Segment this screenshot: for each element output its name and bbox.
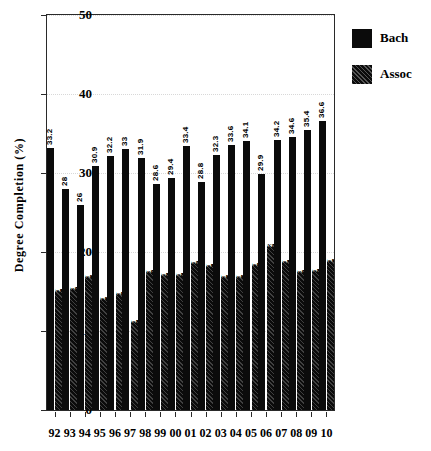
x-tick-mark	[175, 412, 176, 417]
bar-group: 30.914.3	[92, 15, 107, 410]
x-tick-mark	[55, 412, 56, 417]
bar-value-label-assoc: 15	[114, 285, 123, 294]
bar-group: 29.417.4	[168, 15, 183, 410]
bar-bach	[198, 182, 205, 410]
bar-group: 32.215	[107, 15, 122, 410]
bar-value-label-bach: 34.2	[272, 120, 281, 136]
legend-label: Bach	[380, 30, 408, 46]
bar-group: 33.418.8	[183, 15, 198, 410]
x-tick-mark	[70, 412, 71, 417]
bar-bach	[183, 146, 190, 410]
x-tick-mark	[281, 412, 282, 417]
bar-value-label-bach: 34.1	[241, 121, 250, 137]
bar-group: 33.617.1	[228, 15, 243, 410]
bar-group: 2815.6	[62, 15, 77, 410]
x-axis: 92939495969798990001020304050607080910	[47, 412, 334, 448]
bar-value-label-assoc: 17.1	[219, 262, 228, 278]
bar-value-label-assoc: 17.1	[234, 262, 243, 278]
bar-value-label-bach: 28	[60, 177, 69, 186]
x-tick-mark	[221, 412, 222, 417]
x-tick-mark	[251, 412, 252, 417]
bar-assoc	[327, 259, 334, 410]
x-tick-mark	[160, 412, 161, 417]
bar-group: 34.219	[274, 15, 289, 410]
bar-group: 31.917.7	[138, 15, 153, 410]
bar-group: 28.617.3	[153, 15, 168, 410]
bar-value-label-assoc: 11.4	[129, 307, 138, 323]
bar-value-label-bach: 31.9	[136, 139, 145, 155]
x-tick-mark	[266, 412, 267, 417]
bar-group: 28.818.5	[198, 15, 213, 410]
legend-item[interactable]: Bach	[352, 28, 430, 48]
bar-value-label-assoc: 14.3	[98, 284, 107, 300]
bar-value-label-assoc: 21	[265, 238, 274, 247]
x-tick-mark	[115, 412, 116, 417]
y-tick-mark	[41, 331, 46, 332]
bar-value-label-assoc: 18.5	[204, 250, 213, 266]
bar-bach	[289, 137, 296, 410]
bar-value-label-bach: 32.3	[211, 135, 220, 151]
x-tick-mark	[100, 412, 101, 417]
degree-completion-bar-chart: Degree Completion (%) 01020304050 33.215…	[0, 0, 431, 451]
bar-value-label-assoc: 15.6	[68, 273, 77, 289]
x-tick-mark	[326, 412, 327, 417]
bar-value-label-bach: 28.8	[196, 163, 205, 179]
bar-value-label-assoc: 19	[280, 254, 289, 263]
bar-value-label-assoc: 17.7	[144, 257, 153, 273]
bar-value-label-assoc: 17.9	[310, 255, 319, 271]
y-tick-mark	[41, 15, 46, 16]
bar-group: 34.617.7	[289, 15, 304, 410]
x-tick-mark	[236, 412, 237, 417]
bar-bach	[62, 189, 69, 410]
y-tick-mark	[41, 252, 46, 253]
bar-group: 3311.4	[123, 15, 138, 410]
legend-swatch-assoc	[352, 65, 372, 84]
y-axis-title: Degree Completion (%)	[12, 35, 30, 375]
bar-bach	[77, 205, 84, 410]
legend-label: Assoc	[380, 66, 412, 82]
bar-group: 34.118.6	[243, 15, 258, 410]
bar-group: 29.921	[258, 15, 273, 410]
x-tick-label: 10	[315, 426, 337, 441]
bar-value-label-bach: 35.4	[302, 111, 311, 127]
bar-value-label-bach: 36.6	[317, 102, 326, 118]
bar-value-label-bach: 33	[120, 137, 129, 146]
x-tick-mark	[311, 412, 312, 417]
x-tick-mark	[85, 412, 86, 417]
x-tick-mark	[145, 412, 146, 417]
bar-value-label-bach: 33.2	[45, 128, 54, 144]
bar-value-label-assoc: 15.3	[53, 276, 62, 292]
bar-group: 33.215.3	[47, 15, 62, 410]
y-tick-mark	[41, 94, 46, 95]
bar-value-label-assoc: 17.4	[174, 259, 183, 275]
x-tick-mark	[191, 412, 192, 417]
bar-value-label-bach: 33.4	[181, 127, 190, 143]
bar-value-label-bach: 26	[75, 192, 84, 201]
x-tick-mark	[206, 412, 207, 417]
x-tick-mark	[296, 412, 297, 417]
x-tick-mark	[130, 412, 131, 417]
y-tick-mark	[41, 410, 46, 411]
bar-group: 32.317.1	[213, 15, 228, 410]
bar-value-label-bach: 34.6	[287, 117, 296, 133]
bar-bach	[213, 155, 220, 410]
bar-bach	[153, 184, 160, 410]
bar-bach	[107, 156, 114, 410]
bar-bach	[122, 149, 129, 410]
bar-value-label-assoc: 17.1	[83, 262, 92, 278]
bar-bach	[274, 140, 281, 410]
bar-value-label-assoc: 17.3	[159, 260, 168, 276]
bar-bach	[168, 178, 175, 410]
chart-legend: BachAssoc	[352, 28, 430, 100]
bar-group: 2617.1	[77, 15, 92, 410]
bar-value-label-bach: 33.6	[226, 125, 235, 141]
bar-value-label-assoc: 17.7	[295, 257, 304, 273]
legend-item[interactable]: Assoc	[352, 64, 430, 84]
bar-bach	[138, 158, 145, 410]
bar-value-label-assoc: 18.6	[250, 250, 259, 266]
bar-value-label-assoc: 18.8	[189, 248, 198, 264]
bar-group: 36.619.1	[319, 15, 334, 410]
bar-series-layer: 33.215.32815.62617.130.914.332.2153311.4…	[47, 15, 334, 410]
bar-bach	[319, 121, 326, 410]
bar-bach	[258, 174, 265, 410]
